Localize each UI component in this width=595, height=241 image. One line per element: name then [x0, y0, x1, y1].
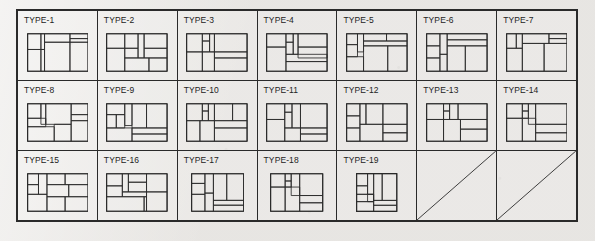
plan-room [374, 200, 397, 205]
plan-room [368, 174, 374, 195]
type-cell-type-18[interactable]: TYPE-18 [257, 151, 337, 220]
type-label: TYPE-6 [423, 15, 453, 25]
type-cell-type-9[interactable]: TYPE-9 [97, 81, 177, 150]
plan-room [54, 124, 71, 141]
plan-outline [426, 104, 486, 141]
plan-room [443, 104, 449, 111]
type-cell-type-11[interactable]: TYPE-11 [257, 81, 337, 150]
plan-room [271, 187, 286, 211]
plan-room [357, 194, 374, 201]
plan-room [107, 48, 125, 71]
plan-room [209, 104, 215, 121]
type-cell-type-15[interactable]: TYPE-15 [18, 151, 97, 220]
plan-diagram [18, 99, 97, 146]
plan-room [286, 34, 293, 42]
plan-room [187, 121, 200, 142]
plan-diagram [337, 169, 416, 216]
plan-room [203, 41, 210, 52]
plan-room [426, 119, 443, 141]
partition-svg [186, 33, 248, 72]
plan-room [145, 197, 147, 212]
plan-room [286, 42, 293, 54]
type-cell-type-10[interactable]: TYPE-10 [177, 81, 257, 150]
plan-room [447, 34, 487, 40]
plan-outline [347, 34, 407, 71]
plan-room [535, 133, 566, 141]
plan-room [301, 134, 328, 141]
plan-room [138, 34, 144, 58]
plan-outline [107, 104, 167, 141]
plan-room [443, 119, 460, 141]
plan-room [267, 47, 286, 71]
plan-room [368, 194, 374, 201]
plan-room [215, 52, 248, 58]
type-cell-type-7[interactable]: TYPE-7 [496, 11, 576, 80]
type-cell-type-3[interactable]: TYPE-3 [177, 11, 257, 80]
plan-room [506, 104, 522, 119]
plan-diagram [258, 169, 337, 216]
type-cell-empty-21[interactable] [496, 151, 576, 220]
plan-room [71, 104, 88, 115]
plan-room [215, 34, 248, 52]
type-cell-type-4[interactable]: TYPE-4 [257, 11, 337, 80]
plan-room [383, 104, 407, 125]
table-row: TYPE-1TYPE-2TYPE-3TYPE-4TYPE-5TYPE-6TYPE… [18, 11, 576, 80]
partition-svg [270, 173, 323, 212]
type-cell-type-16[interactable]: TYPE-16 [97, 151, 177, 220]
plan-room [107, 115, 117, 128]
plan-room [364, 41, 408, 46]
plan-room [147, 104, 168, 128]
plan-room [522, 34, 549, 44]
type-cell-type-1[interactable]: TYPE-1 [18, 11, 97, 80]
type-cell-type-6[interactable]: TYPE-6 [416, 11, 496, 80]
plan-room [301, 128, 328, 134]
plan-room [129, 174, 147, 182]
plan-room [267, 104, 285, 120]
type-cell-type-14[interactable]: TYPE-14 [496, 81, 576, 150]
plan-room [125, 34, 138, 49]
plan-room [440, 54, 447, 71]
type-cell-empty-20[interactable] [416, 151, 496, 220]
plan-room [522, 104, 528, 111]
plan-room [27, 174, 38, 185]
plan-room [387, 34, 408, 41]
partition-svg [346, 103, 408, 142]
plan-diagram [258, 99, 337, 146]
type-cell-type-19[interactable]: TYPE-19 [336, 151, 416, 220]
plan-room [27, 118, 45, 126]
type-cell-type-5[interactable]: TYPE-5 [336, 11, 416, 80]
plan-room [426, 58, 439, 71]
plan-room [107, 197, 144, 212]
plan-room [360, 124, 383, 141]
table-row: TYPE-15TYPE-16TYPE-17TYPE-18TYPE-19 [18, 150, 576, 220]
plan-outline [27, 174, 87, 211]
plan-room [44, 42, 69, 71]
plan-room [187, 34, 203, 52]
type-cell-type-8[interactable]: TYPE-8 [18, 81, 97, 150]
type-label: TYPE-5 [343, 15, 373, 25]
type-cell-type-12[interactable]: TYPE-12 [336, 81, 416, 150]
partition-svg [106, 33, 168, 72]
plan-diagram [337, 99, 416, 146]
plan-room [40, 49, 44, 71]
plan-room [68, 185, 87, 197]
plan-room [187, 104, 203, 121]
type-label: TYPE-18 [264, 155, 299, 165]
plan-room [117, 115, 125, 128]
plan-room [506, 48, 522, 71]
plan-diagram [98, 169, 177, 216]
type-cell-type-17[interactable]: TYPE-17 [177, 151, 257, 220]
plan-room [187, 52, 203, 71]
plan-room [44, 34, 69, 42]
type-label: TYPE-1 [24, 15, 54, 25]
plan-room [357, 174, 368, 186]
plan-room [298, 47, 327, 58]
plan-room [27, 127, 54, 142]
plan-room [215, 58, 248, 71]
plan-room [447, 40, 487, 46]
type-cell-type-13[interactable]: TYPE-13 [416, 81, 496, 150]
type-cell-type-2[interactable]: TYPE-2 [97, 11, 177, 80]
plan-outline [357, 174, 397, 212]
partition-svg [426, 33, 488, 72]
plan-room [213, 200, 243, 205]
